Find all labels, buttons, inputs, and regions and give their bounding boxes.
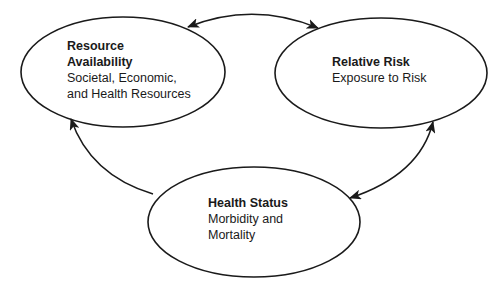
relative-risk-sub: Exposure to Risk xyxy=(332,70,426,86)
relative-risk-title: Relative Risk xyxy=(332,54,426,70)
resource-availability-title-1: Resource xyxy=(67,38,191,54)
health-status-sub-1: Morbidity and xyxy=(208,211,288,227)
health-status-title: Health Status xyxy=(208,195,288,211)
relative-risk-label: Relative Risk Exposure to Risk xyxy=(332,54,426,86)
resource-availability-sub-1: Societal, Economic, xyxy=(67,70,191,86)
resource-availability-title-2: Availability xyxy=(67,54,191,70)
arrow-health-to-resource xyxy=(71,119,153,194)
resource-availability-label: Resource Availability Societal, Economic… xyxy=(67,38,191,102)
health-status-sub-2: Mortality xyxy=(208,227,288,243)
arrow-resource-relative-risk xyxy=(188,14,318,28)
resource-availability-sub-2: and Health Resources xyxy=(67,86,191,102)
arrow-relative-risk-health xyxy=(350,122,433,198)
health-status-label: Health Status Morbidity and Mortality xyxy=(208,195,288,243)
